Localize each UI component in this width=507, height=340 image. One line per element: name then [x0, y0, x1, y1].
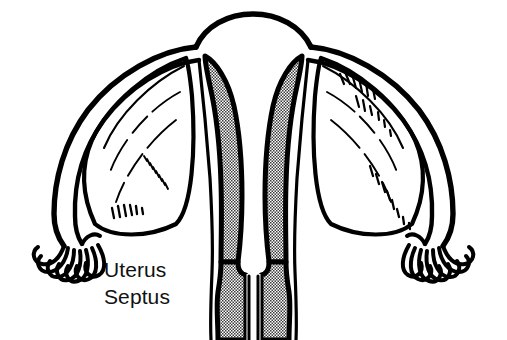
- cervical-canal-left: [217, 262, 246, 340]
- cervical-canal-right: [261, 262, 290, 340]
- anatomical-figure: Uterus Septus: [0, 0, 507, 340]
- uterus-septus-illustration: [0, 0, 507, 340]
- cervical-septum: [247, 274, 261, 340]
